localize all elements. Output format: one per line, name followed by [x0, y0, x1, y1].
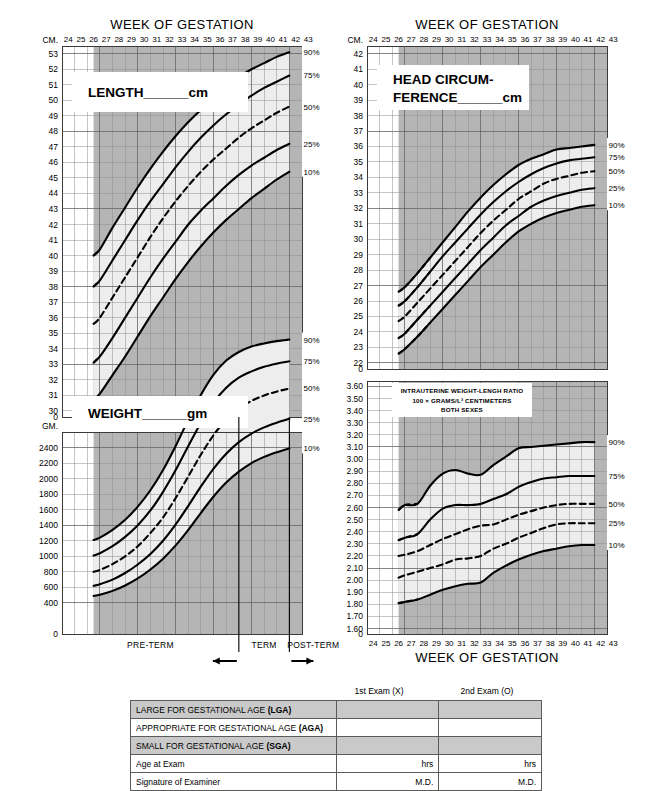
svg-text:47: 47 — [49, 142, 59, 152]
svg-text:37: 37 — [533, 35, 542, 44]
left-chart-column: 90%75%50%25%10%5352515049484746454443424… — [0, 0, 335, 680]
svg-text:1.70: 1.70 — [346, 611, 363, 621]
svg-text:44: 44 — [49, 188, 59, 198]
svg-text:31: 31 — [49, 390, 59, 400]
classification-abbrev: (LGA) — [268, 705, 292, 715]
table-row: APPROPRIATE FOR GESTATIONAL AGE (AGA) — [131, 719, 542, 737]
svg-text:42: 42 — [49, 220, 59, 230]
percentile-label-75pct: 75% — [609, 472, 625, 481]
classification-abbrev: (SGA) — [266, 741, 290, 751]
classification-table: LARGE FOR GESTATIONAL AGE (LGA)APPROPRIA… — [130, 700, 542, 791]
exam-2-cell[interactable]: M.D. — [439, 773, 542, 791]
svg-text:40: 40 — [266, 35, 275, 44]
exam-1-cell[interactable]: M.D. — [336, 773, 439, 791]
svg-text:29: 29 — [432, 35, 441, 44]
svg-text:39: 39 — [49, 266, 59, 276]
exam-2-cell[interactable] — [439, 719, 542, 737]
svg-text:CM.: CM. — [42, 35, 58, 45]
svg-text:1400: 1400 — [39, 520, 58, 530]
svg-text:25: 25 — [76, 35, 85, 44]
svg-text:26: 26 — [394, 639, 403, 648]
weight-label-box: WEIGHT______gm — [72, 396, 248, 428]
weight-field-label: WEIGHT______gm — [88, 406, 207, 421]
svg-text:36: 36 — [520, 35, 529, 44]
svg-text:43: 43 — [609, 639, 618, 648]
svg-text:35: 35 — [203, 35, 212, 44]
svg-text:2.30: 2.30 — [346, 539, 363, 549]
svg-text:38: 38 — [546, 639, 555, 648]
exam-2-cell[interactable] — [439, 737, 542, 755]
svg-text:29: 29 — [127, 35, 136, 44]
svg-text:37: 37 — [354, 126, 364, 136]
svg-text:25: 25 — [381, 639, 390, 648]
svg-text:42: 42 — [596, 639, 605, 648]
svg-text:400: 400 — [44, 598, 58, 608]
svg-text:50: 50 — [49, 95, 59, 105]
svg-text:41: 41 — [354, 64, 364, 74]
length-field-label: LENGTH______cm — [88, 85, 208, 100]
ratio-note-line2: 100 × GRAMS/L³ CENTIMETERS — [412, 397, 511, 404]
exam-col-1-header: 1st Exam (X) — [326, 686, 432, 696]
exam-2-cell[interactable]: hrs — [439, 755, 542, 773]
exam-1-cell[interactable] — [336, 701, 439, 719]
svg-text:36: 36 — [520, 639, 529, 648]
chart-weight_length_ratio: 90%75%50%25%10%3.603.503.403.303.203.103… — [346, 381, 627, 665]
svg-text:33: 33 — [178, 35, 187, 44]
svg-text:43: 43 — [609, 35, 618, 44]
percentile-label-90pct: 90% — [609, 141, 625, 150]
classification-label-text: Signature of Examiner — [136, 777, 220, 787]
percentile-label-75pct: 75% — [609, 153, 625, 162]
svg-text:27: 27 — [407, 639, 416, 648]
svg-text:26: 26 — [89, 35, 98, 44]
exam-1-cell[interactable] — [336, 719, 439, 737]
svg-text:25: 25 — [354, 311, 364, 321]
svg-text:27: 27 — [407, 35, 416, 44]
label-pre-term: PRE-TERM — [127, 640, 174, 650]
svg-text:32: 32 — [470, 35, 479, 44]
svg-text:32: 32 — [354, 203, 364, 213]
svg-text:35: 35 — [508, 35, 517, 44]
svg-text:0: 0 — [358, 629, 363, 639]
svg-text:35: 35 — [354, 157, 364, 167]
svg-text:CM.: CM. — [347, 35, 363, 45]
y-axis-labels: 3.603.503.403.303.203.103.002.902.802.70… — [346, 381, 363, 639]
svg-text:38: 38 — [49, 282, 59, 292]
svg-text:0: 0 — [358, 364, 363, 374]
x-axis-title-top: WEEK OF GESTATION — [110, 17, 254, 32]
svg-text:36: 36 — [49, 313, 59, 323]
exam-1-cell[interactable] — [336, 737, 439, 755]
exam-1-cell[interactable]: hrs — [336, 755, 439, 773]
svg-text:38: 38 — [241, 35, 250, 44]
svg-text:40: 40 — [49, 251, 59, 261]
svg-text:34: 34 — [495, 35, 504, 44]
svg-text:33: 33 — [354, 188, 364, 198]
svg-text:34: 34 — [495, 639, 504, 648]
svg-text:33: 33 — [483, 35, 492, 44]
svg-text:2.90: 2.90 — [346, 466, 363, 476]
svg-text:31: 31 — [354, 219, 364, 229]
svg-text:43: 43 — [49, 204, 59, 214]
label-post-term: POST-TERM — [287, 640, 339, 650]
svg-text:41: 41 — [584, 35, 593, 44]
svg-text:2.60: 2.60 — [346, 503, 363, 513]
table-row: SMALL FOR GESTATIONAL AGE (SGA) — [131, 737, 542, 755]
svg-text:30: 30 — [354, 234, 364, 244]
svg-text:49: 49 — [49, 111, 59, 121]
svg-text:3.10: 3.10 — [346, 442, 363, 452]
table-row: Age at Examhrshrs — [131, 755, 542, 773]
svg-text:42: 42 — [354, 49, 364, 59]
percentile-label-25pct: 25% — [609, 184, 625, 193]
svg-text:37: 37 — [228, 35, 237, 44]
svg-text:39: 39 — [558, 639, 567, 648]
svg-text:2400: 2400 — [39, 443, 58, 453]
svg-text:3.20: 3.20 — [346, 430, 363, 440]
svg-text:26: 26 — [394, 35, 403, 44]
svg-text:41: 41 — [49, 235, 59, 245]
right-charts-svg: 90%75%50%25%10%4241403938373635343332313… — [335, 0, 670, 680]
svg-text:40: 40 — [571, 639, 580, 648]
exam-2-cell[interactable] — [439, 701, 542, 719]
classification-label-text: SMALL FOR GESTATIONAL AGE — [136, 741, 266, 751]
y-axis-labels: 4241403938373635343332313029282726252423… — [347, 35, 363, 374]
svg-text:31: 31 — [152, 35, 161, 44]
svg-text:2.70: 2.70 — [346, 490, 363, 500]
